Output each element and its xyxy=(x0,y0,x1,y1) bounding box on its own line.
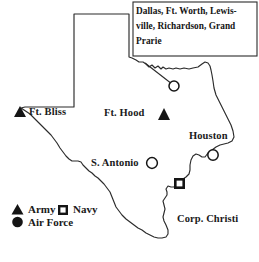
callout-line-2: ville, Richardson, Grand xyxy=(136,19,252,34)
marker-circle-houston xyxy=(208,150,218,160)
texas-military-installations-map: Dallas, Ft. Worth, Lewis- ville, Richard… xyxy=(0,0,259,262)
legend-label-navy: Navy xyxy=(73,204,97,215)
marker-square-corpus-christi-inner xyxy=(177,181,183,187)
place-label-ft-hood: Ft. Hood xyxy=(104,108,144,119)
legend-marker-circle-air-force xyxy=(12,217,23,228)
callout-text: Dallas, Ft. Worth, Lewis- ville, Richard… xyxy=(136,4,252,49)
callout-line-1: Dallas, Ft. Worth, Lewis- xyxy=(136,4,252,19)
place-label-houston: Houston xyxy=(189,131,228,142)
legend-marker-square-navy-inner xyxy=(60,207,65,212)
place-label-corp-christi: Corp. Christi xyxy=(177,214,238,225)
place-label-san-antonio: S. Antonio xyxy=(91,158,139,169)
legend-marker-triangle-army xyxy=(12,204,24,215)
legend-label-air-force: Air Force xyxy=(28,217,73,228)
marker-circle-san-antonio xyxy=(147,158,158,169)
marker-circle-dfw xyxy=(169,81,179,91)
place-label-ft-bliss: Ft. Bliss xyxy=(29,107,66,118)
callout-line-3: Prarie xyxy=(136,34,252,49)
legend-label-army: Army xyxy=(28,204,56,215)
